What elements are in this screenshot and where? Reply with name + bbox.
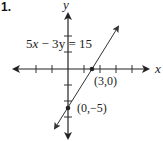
x-axis-label: x	[155, 61, 161, 77]
graph-figure: 1.	[0, 0, 163, 142]
eq-op: − 3	[38, 36, 58, 51]
point-y-intercept	[66, 106, 71, 111]
equation-label: 5x − 3y = 15	[26, 36, 92, 52]
point-label-x-intercept: (3,0)	[94, 74, 117, 89]
y-axis	[64, 14, 72, 138]
eq-rhs: = 15	[65, 36, 92, 51]
point-x-intercept	[90, 67, 95, 72]
point-label-y-intercept: (0,−5)	[77, 101, 107, 116]
coordinate-plane	[0, 0, 163, 142]
y-axis-label: y	[63, 0, 69, 13]
problem-number: 1.	[1, 0, 11, 14]
x-axis	[14, 65, 148, 73]
